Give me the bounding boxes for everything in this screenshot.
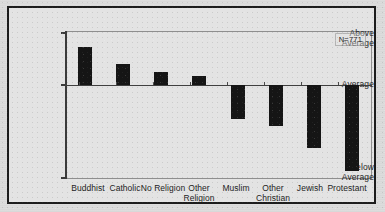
y-tick-below-average bbox=[61, 177, 66, 179]
bar-muslim[interactable] bbox=[231, 85, 245, 119]
x-tick-7 bbox=[338, 82, 339, 85]
bar-other-christian[interactable] bbox=[269, 85, 283, 126]
x-axis-label-other-christian-line2: Christian bbox=[245, 194, 301, 204]
bar-catholic[interactable] bbox=[116, 64, 130, 85]
x-tick-4 bbox=[227, 82, 228, 85]
x-tick-5 bbox=[264, 82, 265, 85]
y-axis-line bbox=[65, 31, 67, 179]
x-tick-6 bbox=[301, 82, 302, 85]
x-axis-label-protestant-line1: Protestant bbox=[327, 183, 366, 193]
plot-right-border bbox=[371, 31, 372, 179]
y-axis-label-below-average-line2: Average bbox=[342, 172, 374, 182]
x-axis-label-other-christian-line1: Other bbox=[262, 183, 284, 193]
average-baseline bbox=[65, 85, 372, 86]
bar-other-religion[interactable] bbox=[192, 76, 206, 85]
figure-frame: Above Average Average Below Average Budd… bbox=[7, 6, 376, 204]
x-tick-1 bbox=[116, 82, 117, 85]
bar-no-religion[interactable] bbox=[154, 72, 168, 85]
x-tick-2 bbox=[153, 82, 154, 85]
bar-protestant[interactable] bbox=[345, 85, 359, 171]
x-tick-3 bbox=[190, 82, 191, 85]
x-tick-0 bbox=[79, 82, 80, 85]
scanned-page: Above Average Average Below Average Budd… bbox=[0, 0, 385, 212]
x-axis-label-other-religion-line1: Other bbox=[188, 183, 210, 193]
x-axis-label-protestant: Protestant bbox=[316, 184, 378, 194]
bar-jewish[interactable] bbox=[307, 85, 321, 148]
sample-size-annotation: N=771 bbox=[335, 33, 366, 46]
x-axis-label-other-religion-line2: Religion bbox=[171, 194, 227, 204]
bar-buddhist[interactable] bbox=[78, 47, 92, 85]
y-tick-above-average bbox=[61, 32, 66, 34]
